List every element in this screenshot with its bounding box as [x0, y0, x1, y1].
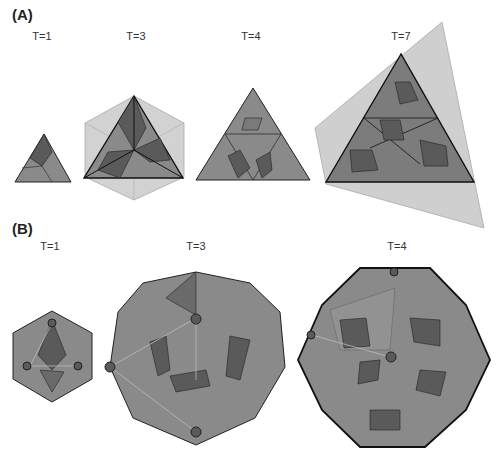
- a-t4-triangle: [196, 88, 310, 180]
- a-t7-triangle: [315, 22, 484, 228]
- b-t3-capsid: [105, 272, 285, 445]
- figure-canvas: [0, 0, 497, 455]
- b-t4-capsid: [298, 268, 490, 447]
- b-t1-capsid: [13, 311, 92, 402]
- a-t3-triangle: [84, 96, 184, 200]
- a-t1-triangle: [15, 134, 71, 182]
